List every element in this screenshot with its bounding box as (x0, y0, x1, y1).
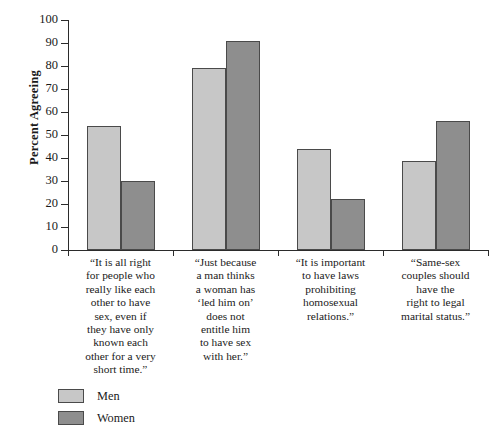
bar-chart: Percent Agreeing 0102030405060708090100 … (0, 0, 503, 438)
y-tick-label: 20 (25, 197, 58, 210)
y-tick-label: 10 (25, 220, 58, 233)
bar-men-group-4 (402, 161, 436, 250)
y-tick-label: 30 (25, 174, 58, 187)
y-tick-label: 80 (25, 59, 58, 72)
legend-item-men: Men (58, 385, 135, 407)
y-tick-mark (61, 66, 68, 67)
legend-swatch-men-icon (58, 389, 84, 403)
plot-area: 0102030405060708090100 (68, 20, 488, 250)
y-tick-mark (61, 112, 68, 113)
x-tick-mark (488, 250, 489, 256)
y-axis-line (68, 20, 69, 250)
y-tick-mark (61, 181, 68, 182)
bar-men-group-3 (297, 149, 331, 250)
y-tick-label: 90 (25, 36, 58, 49)
y-tick-label: 70 (25, 82, 58, 95)
legend-label-women: Women (97, 412, 135, 424)
y-tick-mark (61, 43, 68, 44)
category-label-1: “It is all right for people who really l… (68, 256, 173, 377)
legend-label-men: Men (97, 390, 120, 402)
legend-swatch-women-icon (58, 411, 84, 425)
y-tick-mark (61, 135, 68, 136)
y-tick-mark (61, 158, 68, 159)
bar-men-group-1 (87, 126, 121, 250)
y-tick-mark (61, 89, 68, 90)
y-tick-mark (61, 204, 68, 205)
y-tick-mark (61, 250, 68, 251)
bar-women-group-3 (331, 199, 365, 250)
y-tick-label: 50 (25, 128, 58, 141)
bar-men-group-2 (192, 68, 226, 250)
category-label-2: “Just because a man thinks a woman has ‘… (173, 256, 278, 363)
y-tick-label: 40 (25, 151, 58, 164)
legend: Men Women (58, 385, 135, 429)
category-label-3: “It is important to have laws prohibitin… (278, 256, 383, 323)
y-tick-label: 60 (25, 105, 58, 118)
y-tick-label: 100 (25, 13, 58, 26)
bar-women-group-1 (121, 181, 155, 250)
bar-women-group-2 (226, 41, 260, 250)
category-labels: “It is all right for people who really l… (68, 256, 488, 376)
y-tick-mark (61, 227, 68, 228)
category-label-4: “Same-sex couples should have the right … (383, 256, 488, 323)
bar-women-group-4 (436, 121, 470, 250)
y-tick-mark (61, 20, 68, 21)
y-tick-label: 0 (25, 243, 58, 256)
legend-item-women: Women (58, 407, 135, 429)
